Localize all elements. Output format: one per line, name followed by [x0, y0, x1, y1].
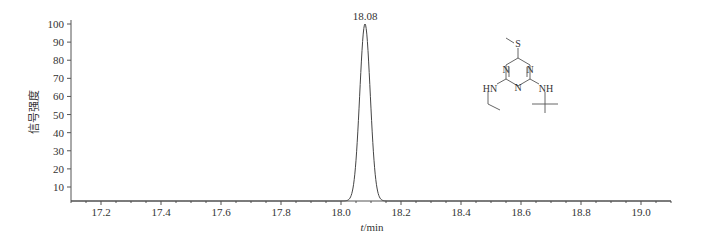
y-tick-label: 100	[48, 18, 65, 30]
x-tick-label: 17.8	[271, 206, 291, 218]
molecular-structure	[488, 38, 558, 113]
svg-text:N: N	[526, 64, 533, 75]
chromatogram-trace	[71, 24, 671, 201]
y-tick-label: 80	[53, 54, 65, 66]
x-tick-label: 17.4	[151, 206, 171, 218]
y-tick-label: 70	[53, 72, 65, 84]
y-tick-label: 10	[53, 181, 65, 193]
structure-atom-labels: S N N N HN NH	[483, 38, 553, 94]
x-tick-label: 18.8	[571, 206, 591, 218]
y-axis-label: 信号强度	[27, 90, 40, 134]
svg-text:NH: NH	[539, 83, 553, 94]
svg-text:N: N	[514, 82, 521, 93]
x-ticks: 17.217.417.617.818.018.218.418.618.819.0	[71, 201, 671, 218]
y-tick-label: 20	[53, 163, 65, 175]
y-tick-label: 40	[53, 127, 65, 139]
svg-text:S: S	[515, 38, 521, 49]
x-tick-label: 18.6	[511, 206, 531, 218]
y-ticks: 102030405060708090100	[48, 18, 72, 193]
y-tick-label: 90	[53, 36, 65, 48]
svg-text:HN: HN	[483, 83, 497, 94]
x-tick-label: 18.4	[451, 206, 471, 218]
x-tick-label: 19.0	[631, 206, 651, 218]
x-tick-label: 17.2	[91, 206, 110, 218]
peak-label: 18.08	[353, 10, 378, 22]
x-axis-label: t/min	[360, 221, 384, 233]
x-tick-label: 18.0	[331, 206, 351, 218]
svg-text:N: N	[502, 64, 509, 75]
y-tick-label: 30	[53, 145, 65, 157]
x-tick-label: 18.2	[391, 206, 410, 218]
chromatogram-chart: 102030405060708090100 17.217.417.617.818…	[0, 0, 702, 242]
y-tick-label: 50	[53, 109, 65, 121]
x-tick-label: 17.6	[211, 206, 231, 218]
y-tick-label: 60	[53, 90, 65, 102]
